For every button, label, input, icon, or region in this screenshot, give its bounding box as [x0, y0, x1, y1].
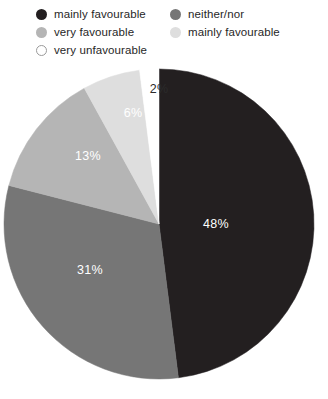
legend-swatch-icon	[170, 27, 181, 38]
pie-chart: 48%31%13%6%2%	[0, 60, 328, 399]
pie-slice-group	[4, 69, 314, 379]
legend-item-mainly-favourable-dark[interactable]: mainly favourable	[36, 6, 147, 23]
legend-label: very favourable	[54, 26, 134, 39]
legend-label: neither/nor	[188, 8, 244, 21]
legend-swatch-icon	[36, 27, 47, 38]
legend-column-right: neither/nor mainly favourable	[170, 6, 280, 42]
legend-column-left: mainly favourable very favourable very u…	[36, 6, 147, 60]
pie-chart-svg	[0, 60, 328, 399]
legend-item-very-unfavourable[interactable]: very unfavourable	[36, 42, 147, 59]
chart-legend: mainly favourable very favourable very u…	[0, 0, 328, 66]
legend-item-mainly-favourable-light[interactable]: mainly favourable	[170, 24, 280, 41]
legend-label: very unfavourable	[54, 44, 147, 57]
legend-swatch-icon	[170, 9, 181, 20]
legend-item-neither-nor[interactable]: neither/nor	[170, 6, 280, 23]
legend-swatch-icon	[36, 9, 47, 20]
pie-slice[interactable]	[159, 69, 314, 378]
legend-label: mainly favourable	[54, 8, 146, 21]
legend-item-very-favourable[interactable]: very favourable	[36, 24, 147, 41]
legend-swatch-icon	[36, 45, 47, 56]
legend-label: mainly favourable	[188, 26, 280, 39]
